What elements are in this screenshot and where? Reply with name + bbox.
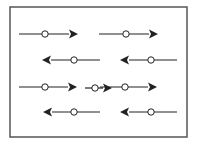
arrow-right [99, 30, 158, 39]
arrow-diagram [0, 0, 198, 145]
arrow-group [19, 30, 177, 117]
arrow-left [42, 56, 100, 65]
arrowhead-icon [120, 56, 129, 65]
arrowhead-icon [43, 108, 52, 117]
circle-marker-icon [148, 109, 154, 115]
circle-marker-icon [122, 84, 128, 90]
arrow-left [43, 108, 100, 117]
arrowhead-icon [148, 83, 157, 92]
diagram-frame [10, 7, 187, 137]
circle-marker-icon [42, 31, 48, 37]
arrowhead-icon [42, 56, 51, 65]
arrowhead-icon [68, 83, 77, 92]
arrow-right [19, 30, 78, 39]
arrow-right [19, 83, 77, 92]
circle-marker-icon [92, 85, 98, 91]
circle-marker-icon [71, 57, 77, 63]
circle-marker-icon [42, 84, 48, 90]
arrow-left [120, 108, 177, 117]
circle-marker-icon [148, 57, 154, 63]
arrow-right [100, 83, 157, 92]
arrowhead-icon [69, 30, 78, 39]
arrow-left [120, 56, 177, 65]
circle-marker-icon [123, 31, 129, 37]
arrowhead-icon [149, 30, 158, 39]
circle-marker-icon [71, 109, 77, 115]
arrow-right [85, 84, 112, 93]
arrowhead-icon [103, 84, 112, 93]
arrowhead-icon [120, 108, 129, 117]
